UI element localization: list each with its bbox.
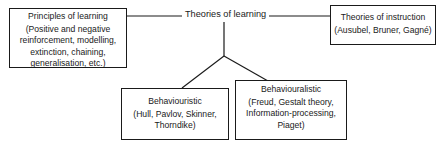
behaviouralistic-body: (Freud, Gestalt theory, Information-proc…	[236, 97, 346, 131]
instruction-body: (Ausubel, Bruner, Gagné)	[331, 25, 435, 36]
theories-of-instruction-box: Theories of instruction (Ausubel, Bruner…	[330, 5, 436, 45]
principles-of-learning-box: Principles of learning (Positive and neg…	[9, 8, 127, 68]
behaviouralistic-box: Behaviouralistic (Freud, Gestalt theory,…	[235, 80, 347, 140]
principles-body: (Positive and negative reinforcement, mo…	[10, 24, 126, 69]
behaviouristic-body: (Hull, Pavlov, Skinner, Thorndike)	[122, 109, 228, 131]
behaviouralistic-title: Behaviouralistic	[236, 84, 346, 95]
center-title: Theories of learning	[182, 9, 269, 19]
principles-title: Principles of learning	[10, 11, 126, 22]
center-title-text: Theories of learning	[185, 9, 266, 19]
behaviouristic-title: Behaviouristic	[122, 96, 228, 107]
diagonal-connector-right	[224, 56, 268, 81]
instruction-title: Theories of instruction	[331, 12, 435, 23]
diagonal-connector-left	[182, 56, 224, 88]
behaviouristic-box: Behaviouristic (Hull, Pavlov, Skinner, T…	[121, 88, 229, 140]
